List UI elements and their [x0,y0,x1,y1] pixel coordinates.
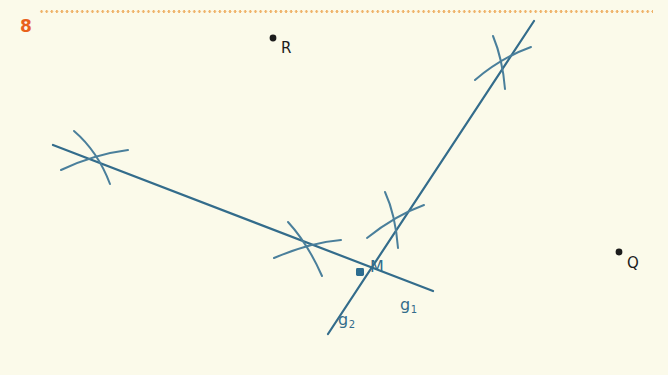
arc-cross-middle [274,222,341,276]
label-point-Q: Q [627,256,639,271]
label-line-g1-subscript: 1 [411,304,417,315]
label-line-g2-subscript: 2 [349,319,355,330]
label-line-g2: g2 [338,312,355,328]
arc-cross-upper-left [61,131,128,184]
arc-cross-upper-right [475,36,531,89]
point-M-marker [356,268,364,276]
worksheet-page: 8 M g1 g2 [0,0,668,375]
label-line-g1-base: g [400,295,410,314]
label-point-R: R [281,41,291,56]
label-line-g2-base: g [338,310,348,329]
point-Q-marker [616,249,623,256]
point-R-marker [270,35,277,42]
label-line-g1: g1 [400,297,417,313]
geometry-figure [0,0,668,375]
label-point-M: M [370,259,384,275]
